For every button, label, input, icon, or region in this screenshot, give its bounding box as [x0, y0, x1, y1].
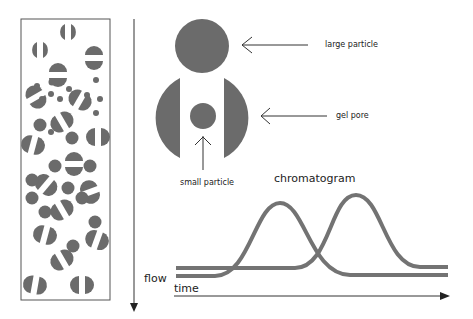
chromatogram-curves [176, 195, 448, 276]
small-particle-shape [190, 103, 216, 129]
flow-label: flow [144, 272, 167, 285]
time-label: time [174, 282, 199, 295]
large-particle-shape [175, 19, 229, 73]
chromatogram-title: chromatogram [274, 172, 356, 185]
large-particle-label: large particle [325, 40, 378, 49]
small-particle-label: small particle [180, 178, 234, 187]
column-particles [19, 24, 111, 296]
curve-peak-2 [176, 195, 448, 268]
diagram-canvas [0, 0, 473, 319]
time-arrowhead-icon [440, 292, 450, 300]
flow-arrowhead-icon [130, 303, 138, 312]
gel-pore-label: gel pore [336, 111, 369, 120]
